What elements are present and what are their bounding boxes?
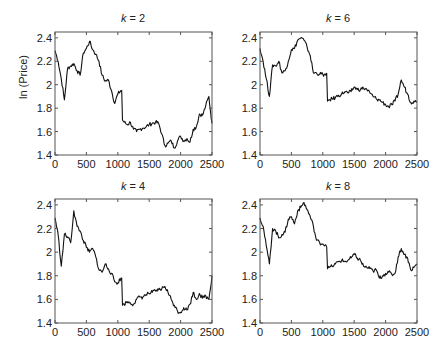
price-line <box>55 41 212 148</box>
y-tick-label: 2.2 <box>37 55 52 67</box>
x-tick-label: 0 <box>52 158 58 170</box>
panel-title: k = 6 <box>326 12 350 24</box>
x-tick-label: 2000 <box>168 326 192 338</box>
x-tick-label: 1500 <box>137 158 161 170</box>
x-tick-label: 2500 <box>405 326 429 338</box>
y-tick-label: 2.4 <box>242 32 257 44</box>
y-tick-label: 2 <box>46 79 52 91</box>
plot-frame <box>260 199 417 323</box>
x-tick-label: 2500 <box>405 158 429 170</box>
y-tick-label: 1.8 <box>242 270 257 282</box>
plot-frame <box>260 32 417 155</box>
y-tick-label: 2 <box>251 79 257 91</box>
x-tick-label: 0 <box>257 158 263 170</box>
price-line <box>55 211 212 314</box>
y-tick-label: 1.4 <box>37 317 52 329</box>
y-tick-label: 2.4 <box>37 32 52 44</box>
x-tick-label: 2500 <box>200 158 224 170</box>
y-tick-label: 1.6 <box>37 293 52 305</box>
y-tick-label: 2.2 <box>242 223 257 235</box>
y-tick-label: 1.6 <box>242 293 257 305</box>
x-tick-label: 500 <box>77 158 95 170</box>
x-tick-label: 500 <box>282 158 300 170</box>
x-tick-label: 2500 <box>200 326 224 338</box>
x-tick-label: 1000 <box>106 158 130 170</box>
y-tick-label: 1.8 <box>37 102 52 114</box>
y-tick-label: 1.6 <box>37 126 52 138</box>
x-tick-label: 1500 <box>342 158 366 170</box>
price-line <box>260 38 417 108</box>
x-tick-label: 2000 <box>168 158 192 170</box>
x-tick-label: 0 <box>257 326 263 338</box>
y-tick-label: 2.2 <box>242 55 257 67</box>
y-tick-label: 2 <box>251 246 257 258</box>
x-tick-label: 1000 <box>311 326 335 338</box>
price-line <box>260 203 417 279</box>
panel-k4: k = 4 050010001500200025001.41.61.822.22… <box>37 180 225 338</box>
x-tick-label: 0 <box>52 326 58 338</box>
x-tick-label: 1500 <box>137 326 161 338</box>
panel-k6: k = 6 050010001500200025001.41.61.822.22… <box>242 12 430 170</box>
y-tick-label: 2.4 <box>242 199 257 211</box>
figure: ln (Price) k = 2 050010001500200025001.4… <box>0 0 445 356</box>
panel-title: k = 8 <box>326 180 350 192</box>
x-tick-label: 2000 <box>373 326 397 338</box>
y-tick-label: 2.2 <box>37 223 52 235</box>
x-tick-label: 500 <box>77 326 95 338</box>
y-tick-label: 2 <box>46 246 52 258</box>
y-tick-label: 1.8 <box>242 102 257 114</box>
x-tick-label: 1000 <box>106 326 130 338</box>
y-tick-label: 1.4 <box>242 317 257 329</box>
x-tick-label: 500 <box>282 326 300 338</box>
panel-title: k = 2 <box>121 12 145 24</box>
x-tick-label: 1000 <box>311 158 335 170</box>
plot-frame <box>55 32 212 155</box>
x-tick-label: 1500 <box>342 326 366 338</box>
y-tick-label: 1.8 <box>37 270 52 282</box>
y-axis-label: ln (Price) <box>17 55 29 99</box>
y-tick-label: 1.4 <box>37 149 52 161</box>
y-tick-label: 2.4 <box>37 199 52 211</box>
x-tick-label: 2000 <box>373 158 397 170</box>
y-tick-label: 1.4 <box>242 149 257 161</box>
panel-title: k = 4 <box>121 180 145 192</box>
panel-k2: k = 2 050010001500200025001.41.61.822.22… <box>37 12 225 170</box>
panel-k8: k = 8 050010001500200025001.41.61.822.22… <box>242 180 430 338</box>
y-tick-label: 1.6 <box>242 126 257 138</box>
